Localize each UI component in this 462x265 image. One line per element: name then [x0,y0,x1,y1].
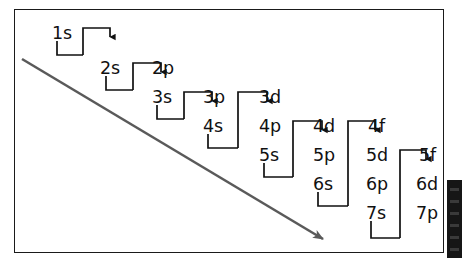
diagram-stage: 1s 2s 2p 3s 3p 4s 3d 4p 5s 4d 5p 6s 4f 5… [0,0,462,265]
orbital-label-4f: 4f [368,118,385,136]
orbital-label-3s: 3s [152,89,172,107]
orbital-label-6s: 6s [313,176,333,194]
orbital-label-4p: 4p [259,118,281,136]
orbital-label-5d: 5d [366,147,388,165]
orbital-label-6p: 6p [366,176,388,194]
orbital-label-4d: 4d [313,118,335,136]
orbital-label-2p: 2p [152,60,174,78]
orbital-label-7s: 7s [366,205,386,223]
orbital-label-4s: 4s [203,118,223,136]
orbital-label-2s: 2s [100,60,120,78]
orbital-label-1s: 1s [52,25,72,43]
orbital-label-6d: 6d [416,176,438,194]
orbital-label-3d: 3d [259,89,281,107]
orbital-label-7p: 7p [416,205,438,223]
page-edge-bar [447,180,462,258]
orbital-label-5p: 5p [313,147,335,165]
orbital-label-5s: 5s [259,147,279,165]
orbital-label-5f: 5f [419,147,436,165]
orbital-label-3p: 3p [203,89,225,107]
